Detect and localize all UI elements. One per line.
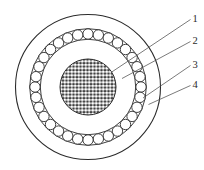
diagram-canvas: 1 2 3 4 [0,0,204,170]
armor-wire-circle [72,30,82,40]
armor-wire-circle [30,82,40,92]
leader-line-3 [143,66,191,99]
callout-label-2: 2 [193,35,198,46]
armor-wire-circle [34,102,44,112]
armor-wire-circle [63,131,73,141]
armor-wire-circle [34,62,44,72]
cable-cross-section-diagram: 1 2 3 4 [0,0,204,170]
armor-wire-circle [53,38,63,48]
armor-wire-circle [103,33,113,43]
armor-wire-circle [136,82,146,92]
armor-wire-circle [83,29,93,39]
conductor-core-circle [60,59,116,115]
armor-wire-circle [31,71,41,81]
armor-wire-circle [31,92,41,102]
armor-wire-circle [93,134,103,144]
callout-label-4: 4 [193,79,199,90]
armor-wire-circle [132,102,142,112]
armor-wire-circle [83,135,93,145]
armor-wire-circle [112,126,122,136]
callout-label-1: 1 [193,13,198,24]
armor-wire-circle [103,131,113,141]
callout-label-3: 3 [193,59,198,70]
leader-line-4 [149,86,191,105]
armor-wire-circle [63,33,73,43]
armor-wire-circle [72,134,82,144]
armor-wire-circle [135,71,145,81]
armor-wire-circle [39,111,49,121]
armor-wire-circle [93,30,103,40]
